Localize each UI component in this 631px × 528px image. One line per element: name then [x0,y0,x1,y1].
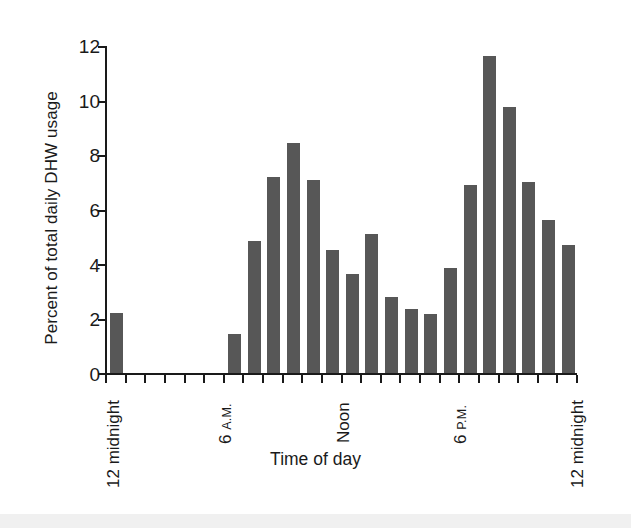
y-tick-label-10: 10 [60,91,100,113]
x-tick [184,375,186,383]
x-tick [517,375,519,383]
x-tick [556,375,558,383]
bar [444,268,457,373]
x-tick-label-text: 6 [451,430,470,444]
x-tick-label-text: Noon [334,402,353,443]
x-tick-label-12-midnight-left: 12 midnight [104,400,124,488]
x-tick [380,375,382,383]
x-tick [164,375,166,383]
x-tick [203,375,205,383]
x-tick [301,375,303,383]
x-tick-label-6-pm: 6 P.M. [451,405,471,444]
bar [522,182,535,373]
y-tick-label-12: 12 [60,36,100,58]
x-tick [478,375,480,383]
x-tick [576,375,578,383]
bar [424,314,437,373]
y-tick-label-0: 0 [60,364,100,386]
x-tick [125,375,127,383]
bar [307,180,320,373]
y-tick-6 [98,210,106,212]
y-tick-10 [98,101,106,103]
x-tick [537,375,539,383]
x-tick [419,375,421,383]
y-tick-4 [98,264,106,266]
y-tick-8 [98,155,106,157]
x-tick [223,375,225,383]
x-tick [321,375,323,383]
x-tick [360,375,362,383]
bar [248,241,261,373]
bar [228,334,241,374]
bar [542,220,555,373]
x-tick-label-noon: Noon [334,402,354,443]
y-tick-label-6: 6 [60,200,100,222]
bar [365,234,378,373]
x-tick-label-suffix: A.M. [220,403,234,430]
x-tick [282,375,284,383]
figure-canvas: Percent of total daily DHW usage 12 10 8… [0,0,631,528]
y-tick-label-2: 2 [60,309,100,331]
x-tick-label-text: 12 midnight [568,400,587,488]
x-tick [341,375,343,383]
y-tick-label-4: 4 [60,255,100,277]
x-axis-title: Time of day [0,449,631,470]
x-tick [439,375,441,383]
bar [287,143,300,373]
x-tick [262,375,264,383]
bar [483,56,496,373]
bar [326,250,339,373]
x-tick [498,375,500,383]
y-axis-title: Percent of total daily DHW usage [42,48,62,388]
y-tick-label-8: 8 [60,145,100,167]
bar [346,274,359,373]
bar [562,245,575,373]
x-tick [144,375,146,383]
bar [464,185,477,373]
plot-area [105,46,576,374]
bar [385,297,398,373]
x-tick [458,375,460,383]
bar [110,313,123,373]
y-tick-12 [98,46,106,48]
page-bottom-band [0,514,631,528]
x-tick-label-6-am: 6 A.M. [216,403,236,444]
bar [267,177,280,373]
x-tick [105,375,107,383]
x-tick-label-12-midnight-right: 12 midnight [568,400,588,488]
bar [405,309,418,373]
x-tick-label-suffix: P.M. [455,405,469,430]
y-tick-2 [98,319,106,321]
bar [503,107,516,373]
x-tick [399,375,401,383]
x-tick [242,375,244,383]
x-tick-label-text: 6 [216,430,235,444]
x-tick-label-text: 12 midnight [104,400,123,488]
